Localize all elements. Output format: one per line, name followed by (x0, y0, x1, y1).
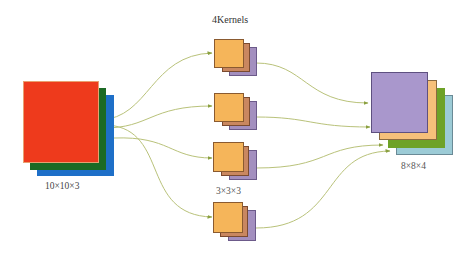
output-size-label: 8×8×4 (401, 161, 426, 171)
kernel-3-layer-1 (213, 142, 244, 172)
connector-kernel-4-output (256, 151, 390, 228)
kernel-1-layer-1 (214, 39, 244, 68)
kernel-2-layer-1 (214, 93, 244, 122)
output-channel-purple (371, 72, 428, 133)
connector-kernel-1-output (256, 63, 368, 103)
connector-input-kernel-1 (100, 53, 212, 120)
connector-input-kernel-4 (108, 125, 212, 217)
cnn-convolution-diagram: 10×10×3 4Kernels 3×3×3 8×8×4 (0, 0, 475, 256)
input-size-label: 10×10×3 (45, 181, 79, 191)
kernel-4-layer-1 (213, 202, 243, 233)
kernel-size-label: 3×3×3 (216, 186, 241, 196)
connector-kernel-2-output (256, 117, 370, 127)
connector-input-kernel-3 (114, 138, 212, 158)
connector-input-kernel-2 (104, 106, 212, 128)
kernels-count-label: 4Kernels (212, 14, 248, 25)
input-channel-red (23, 81, 99, 163)
